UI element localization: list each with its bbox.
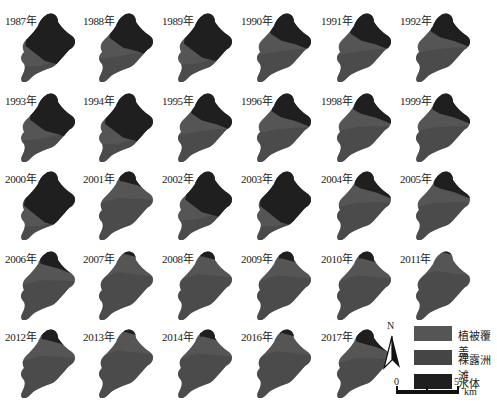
map-panel: 2014年	[157, 318, 237, 398]
map-panel: 2012年	[0, 318, 80, 398]
map-panel: 2005年	[395, 160, 475, 240]
year-label: 2006年	[5, 250, 37, 266]
north-label: N	[387, 320, 394, 331]
map-panel: 1987年	[0, 2, 80, 82]
map-panel: 2016年	[236, 318, 316, 398]
year-label: 1998年	[321, 92, 353, 108]
year-label: 1988年	[83, 12, 115, 28]
year-label: 1989年	[162, 12, 194, 28]
year-label: 1995年	[162, 92, 194, 108]
map-panel: 2008年	[157, 240, 237, 320]
year-label: 2014年	[162, 328, 194, 344]
year-label: 1992年	[400, 12, 432, 28]
north-arrow-icon: N	[382, 326, 402, 374]
year-label: 1993年	[5, 92, 37, 108]
map-panel: 2006年	[0, 240, 80, 320]
year-label: 1996年	[241, 92, 273, 108]
year-label: 2013年	[83, 328, 115, 344]
map-panel: 2010年	[316, 240, 396, 320]
year-label: 2001年	[83, 170, 115, 186]
map-panel: 1990年	[236, 2, 316, 82]
year-label: 1991年	[321, 12, 353, 28]
scale-tick-2-5: 2.5	[418, 376, 431, 387]
scale-tick-mark	[396, 386, 398, 394]
map-panel: 1994年	[78, 82, 158, 162]
map-panel: 1996年	[236, 82, 316, 162]
scale-tick-mark	[426, 386, 428, 394]
map-panel: 1993年	[0, 82, 80, 162]
year-label: 1999年	[400, 92, 432, 108]
year-label: 1987年	[5, 12, 37, 28]
map-panel: 2013年	[78, 318, 158, 398]
map-panel: 2003年	[236, 160, 316, 240]
year-label: 2003年	[241, 170, 273, 186]
map-panel: 2009年	[236, 240, 316, 320]
year-label: 2000年	[5, 170, 37, 186]
map-panel: 1991年	[316, 2, 396, 82]
year-label: 2016年	[241, 328, 273, 344]
map-panel: 2011年	[395, 240, 475, 320]
map-panel: 1999年	[395, 82, 475, 162]
scale-tick-mark	[457, 386, 459, 394]
legend-swatch-bare-sandbar	[414, 350, 452, 365]
map-panel: 2007年	[78, 240, 158, 320]
year-label: 1990年	[241, 12, 273, 28]
year-label: 2011年	[400, 250, 431, 266]
map-panel: 2004年	[316, 160, 396, 240]
map-panel: 2000年	[0, 160, 80, 240]
map-panel: 1989年	[157, 2, 237, 82]
year-label: 2012年	[5, 328, 37, 344]
year-label: 2005年	[400, 170, 432, 186]
map-panel: 1995年	[157, 82, 237, 162]
map-panel: 2001年	[78, 160, 158, 240]
map-panel: 1992年	[395, 2, 475, 82]
year-label: 1994年	[83, 92, 115, 108]
legend-swatch-vegetation	[414, 326, 452, 341]
scale-bar: 0 2.5 5 km	[392, 376, 488, 406]
legend: N 植被覆盖 裸露洲滩 水体 0 2.5 5 km	[378, 318, 497, 409]
year-label: 2017年	[321, 328, 353, 344]
year-label: 2002年	[162, 170, 194, 186]
map-panel: 2002年	[157, 160, 237, 240]
year-label: 2009年	[241, 250, 273, 266]
year-label: 2010年	[321, 250, 353, 266]
scale-unit: km	[464, 386, 477, 397]
map-panel: 1998年	[316, 82, 396, 162]
year-label: 2008年	[162, 250, 194, 266]
year-label: 2007年	[83, 250, 115, 266]
year-label: 2004年	[321, 170, 353, 186]
map-panel: 1988年	[78, 2, 158, 82]
